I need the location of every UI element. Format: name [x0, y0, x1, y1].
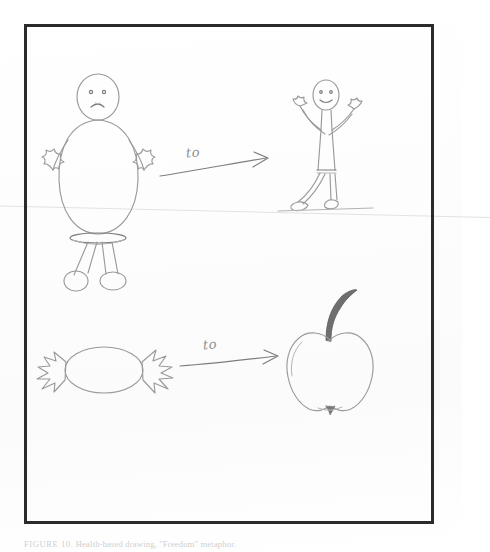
arrow-label-bottom: to — [202, 337, 217, 353]
drawing-frame-border — [24, 24, 434, 524]
figure-caption-text: Health-based drawing, "Freedom" metaphor… — [76, 539, 236, 549]
figure-caption-prefix: FIGURE 10. — [24, 539, 73, 549]
arrow-label-top: to — [185, 145, 200, 161]
figure-caption: FIGURE 10. Health-based drawing, "Freedo… — [24, 539, 444, 549]
